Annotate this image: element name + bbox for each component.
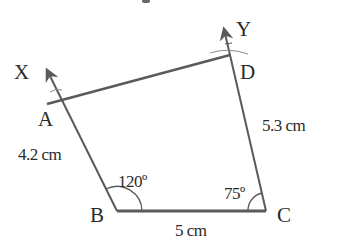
point-label-x: X: [14, 62, 29, 83]
angle-label-b: 120º: [118, 173, 147, 190]
ray-bx: [47, 70, 117, 211]
point-label-d: D: [240, 62, 255, 83]
tick-mark-y: [225, 43, 232, 44]
point-label-a: A: [38, 109, 53, 130]
side-label-bc: 5 cm: [175, 222, 207, 239]
point-label-b: B: [90, 205, 104, 226]
side-label-ab: 4.2 cm: [18, 146, 61, 163]
side-ad: [47, 55, 230, 104]
clipped-title-fragment: [142, 0, 150, 3]
arc-mark-a: [50, 89, 62, 92]
point-label-c: C: [277, 205, 291, 226]
angle-arc-c: [248, 193, 262, 211]
point-label-y: Y: [236, 19, 251, 40]
side-label-cd: 5.3 cm: [262, 117, 305, 134]
angle-label-c: 75º: [224, 185, 245, 202]
